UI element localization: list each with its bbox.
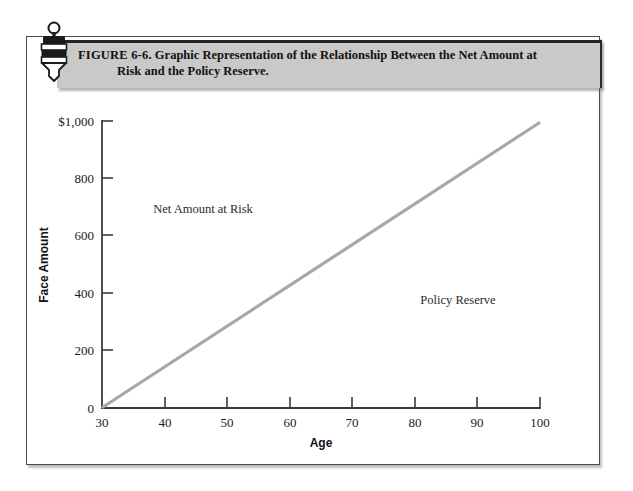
annotation-net-amount-at-risk: Net Amount at Risk — [153, 202, 253, 216]
x-axis-ticks — [165, 397, 540, 408]
x-tick-label: 100 — [530, 415, 550, 430]
x-tick-label: 60 — [284, 415, 297, 430]
y-tick-label: $1,000 — [58, 114, 94, 129]
stamp-seal-icon — [37, 21, 71, 83]
x-axis-title: Age — [310, 436, 333, 450]
x-tick-label: 80 — [409, 415, 422, 430]
y-tick-label: 400 — [75, 286, 95, 301]
x-tick-label: 70 — [346, 415, 359, 430]
y-axis-tick-labels: $1,000 800 600 400 200 0 — [58, 114, 94, 416]
x-tick-label: 50 — [221, 415, 234, 430]
chart-plot-area: $1,000 800 600 400 200 0 30 40 — [26, 88, 600, 465]
annotation-policy-reserve: Policy Reserve — [420, 293, 496, 307]
y-tick-label: 800 — [75, 171, 95, 186]
figure-caption-bar: FIGURE 6-6. Graphic Representation of th… — [57, 40, 602, 88]
figure-caption: FIGURE 6-6. Graphic Representation of th… — [78, 48, 594, 79]
y-axis-ticks — [102, 121, 113, 350]
x-tick-label: 40 — [159, 415, 172, 430]
figure-caption-line-1: Graphic Representation of the Relationsh… — [155, 48, 537, 62]
figure-caption-line-2: Risk and the Policy Reserve. — [78, 64, 594, 80]
figure-page: FIGURE 6-6. Graphic Representation of th… — [0, 0, 633, 491]
y-tick-label: 600 — [75, 228, 95, 243]
y-axis-title: Face Amount — [37, 227, 51, 303]
x-axis-tick-labels: 30 40 50 60 70 80 90 100 — [96, 415, 550, 430]
x-tick-label: 30 — [96, 415, 109, 430]
figure-number-label: FIGURE 6-6. — [78, 48, 152, 62]
y-tick-label: 200 — [75, 343, 95, 358]
x-tick-label: 90 — [471, 415, 484, 430]
policy-reserve-line — [103, 123, 539, 407]
y-tick-label: 0 — [88, 401, 95, 416]
